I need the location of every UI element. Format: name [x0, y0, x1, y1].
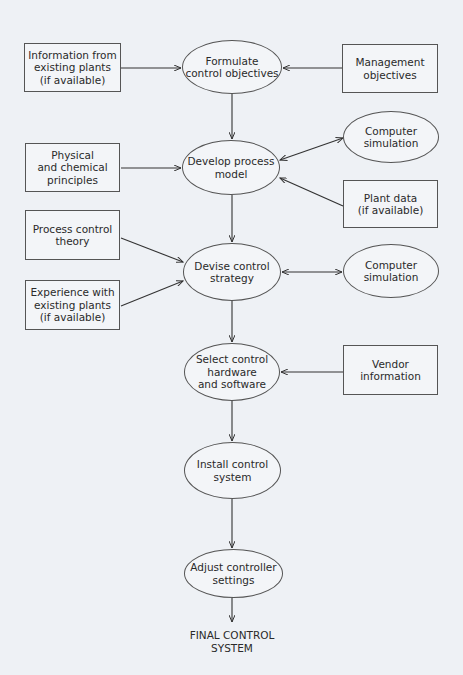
box-vendor-information: Vendor information [343, 345, 438, 395]
box-management-objectives: Management objectives [342, 44, 438, 93]
arrow-plantdata-to-develop [280, 178, 343, 206]
box-experience-with-existing-plants: Experience with existing plants (if avai… [25, 280, 120, 330]
arrow-experience-to-devise [121, 281, 183, 306]
box-process-control-theory: Process control theory [25, 210, 120, 260]
node-computer-simulation-2: Computer simulation [343, 244, 439, 298]
node-devise-control-strategy: Devise control strategy [183, 243, 281, 301]
node-install-control-system: Install control system [184, 442, 281, 499]
node-adjust-controller-settings: Adjust controller settings [184, 549, 283, 598]
node-select-control-hardware-software: Select control hardware and software [184, 343, 280, 401]
box-plant-data: Plant data (if available) [343, 180, 438, 228]
box-information-from-existing-plants: Information from existing plants (if ava… [24, 43, 121, 92]
control-design-flowchart: Formulate control objectives Develop pro… [0, 0, 463, 675]
node-formulate-control-objectives: Formulate control objectives [182, 40, 282, 94]
box-physical-chemical-principles: Physical and chemical principles [25, 143, 120, 192]
node-computer-simulation-1: Computer simulation [343, 111, 439, 163]
arrow-sim1-develop-bidirectional [280, 138, 343, 160]
node-develop-process-model: Develop process model [182, 140, 280, 195]
arrow-theory-to-devise [121, 238, 183, 262]
node-final-control-system: FINAL CONTROL SYSTEM [172, 626, 292, 658]
